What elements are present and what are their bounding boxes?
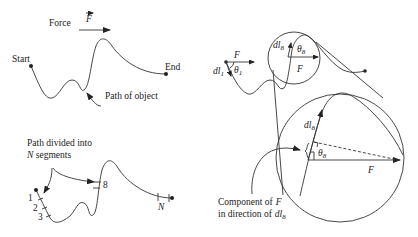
small-force-symbol: F	[233, 50, 240, 60]
right-angle-mark	[314, 142, 318, 147]
magnified-path-curve	[300, 93, 403, 196]
divided-path-curve	[36, 161, 172, 223]
segment-label-8: 8	[103, 180, 108, 190]
theta1-symbol: θ1	[234, 65, 242, 77]
dl1-symbol: dl1	[213, 66, 224, 78]
panel-divided-path: Path divided into N segments 1 2 3 8 N	[26, 138, 174, 222]
object-path-curve	[31, 39, 166, 98]
dl8-symbol-large: dl8	[304, 120, 315, 132]
dl-subscript: 1	[220, 70, 224, 78]
path-end-small	[363, 69, 367, 73]
theta-subscript: 8	[323, 152, 327, 160]
path-pointer-arrow	[87, 93, 101, 106]
pointer-arrow-segment-1	[44, 168, 52, 193]
f-symbol: F	[275, 197, 282, 207]
dl1-vector	[226, 62, 231, 76]
divided-end-point	[170, 196, 174, 200]
caption-text: Component of	[218, 197, 273, 207]
force-vector-symbol: F	[85, 14, 92, 24]
panel-dot-product-detail: F dl1 θ1 dl8 θ8 F dl8 θ8 F Component ofF…	[213, 32, 404, 222]
caption-text: in direction of	[218, 209, 273, 219]
dl-subscript: 8	[280, 44, 284, 52]
theta-subscript: 8	[302, 48, 306, 56]
segment-label-n: N	[157, 202, 165, 212]
path-curve-small	[226, 35, 365, 94]
component-caption-line2: in direction ofdl8	[218, 209, 286, 221]
component-brace	[305, 143, 309, 159]
start-point	[29, 64, 33, 68]
dl8-symbol-small: dl8	[273, 40, 284, 52]
segment-label-1: 1	[28, 193, 33, 203]
divided-caption-line2: N segments	[26, 150, 71, 160]
panel-path-of-object: Force F Start End Path of object	[12, 13, 181, 106]
projection-dashed-line	[314, 142, 398, 160]
end-point	[164, 72, 168, 76]
work-along-path-diagram: Force F Start End Path of object Path di…	[0, 0, 418, 237]
theta8-symbol-small: θ8	[297, 44, 306, 56]
theta-subscript: 1	[239, 69, 243, 77]
component-caption-line1: Component ofF	[218, 197, 282, 207]
segment-label-3: 3	[38, 212, 43, 222]
pointer-arrow-segment-8	[53, 168, 94, 182]
divided-caption-line1: Path divided into	[27, 138, 92, 148]
force-symbol-large: F	[367, 165, 374, 175]
dl-subscript: 8	[282, 213, 286, 221]
path-of-object-label: Path of object	[105, 91, 158, 101]
magnify-connector-top	[316, 42, 383, 98]
zoom-circle-large	[276, 94, 404, 222]
divided-start-point	[34, 188, 38, 192]
start-label: Start	[12, 54, 30, 64]
force-symbol-small-2: F	[296, 64, 303, 74]
end-label: End	[165, 62, 181, 72]
force-label: Force	[49, 18, 71, 28]
segments-text: segments	[33, 150, 71, 160]
theta8-symbol-large: θ8	[318, 148, 327, 160]
dl8-vector-small	[288, 43, 291, 57]
dl-subscript: 8	[311, 124, 315, 132]
